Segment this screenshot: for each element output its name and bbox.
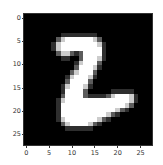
x-tick-15: 15 xyxy=(88,149,102,157)
x-tick-10: 10 xyxy=(65,149,79,157)
x-tick-25: 25 xyxy=(134,149,148,157)
x-tick-20: 20 xyxy=(111,149,125,157)
x-tick-5: 5 xyxy=(42,149,56,157)
digit-image xyxy=(24,14,152,145)
x-tick-0: 0 xyxy=(19,149,33,157)
y-tick-5: 5 xyxy=(0,38,21,45)
y-tick-20: 20 xyxy=(0,108,21,115)
y-tick-15: 15 xyxy=(0,85,21,92)
y-tick-25: 25 xyxy=(0,131,21,138)
image-axes xyxy=(24,14,152,145)
y-tick-10: 10 xyxy=(0,61,21,68)
y-tick-0: 0 xyxy=(0,15,21,22)
